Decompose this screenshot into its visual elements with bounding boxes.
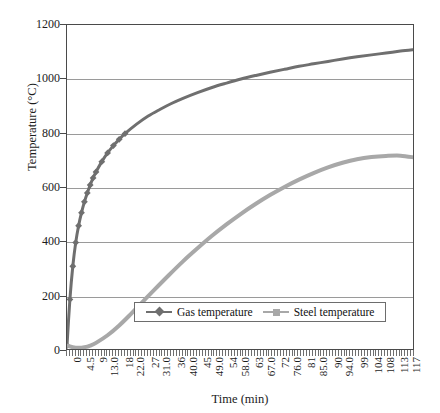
x-tick-mark [185,350,186,356]
x-tick-mark [260,350,261,356]
x-tick-mark [289,350,290,356]
x-tick-mark [92,350,93,356]
x-tick-mark [292,350,293,356]
y-tick-label: 1000 [26,72,60,84]
x-tick-label: 54 [228,357,239,391]
data-point-marker [78,209,85,216]
x-tick-mark [86,350,87,356]
x-tick-mark [150,350,151,356]
x-tick-mark [101,350,102,356]
y-tick-mark [60,187,66,188]
x-tick-mark [124,350,125,356]
x-axis-tick-marks [66,350,414,357]
x-tick-mark [80,350,81,356]
x-tick-mark [115,350,116,356]
x-tick-mark [300,350,301,356]
legend-entry-gas-temperature[interactable]: Gas temperature [146,306,253,318]
x-tick-mark [346,350,347,356]
data-point-marker [67,296,73,303]
x-tick-mark [179,350,180,356]
x-tick-mark [404,350,405,356]
x-tick-mark [225,350,226,356]
x-tick-mark [205,350,206,356]
x-tick-mark [378,350,379,356]
x-tick-mark [375,350,376,356]
x-tick-mark [344,350,345,356]
x-tick-mark [266,350,267,356]
x-tick-mark [245,350,246,356]
x-tick-label: 31.0 [161,357,172,391]
x-tick-mark [309,350,310,356]
y-tick-label: 1200 [26,18,60,30]
x-tick-mark [332,350,333,356]
x-tick-mark [341,350,342,356]
x-tick-mark [159,350,160,356]
x-tick-label: 36 [176,357,187,391]
legend-label: Gas temperature [177,306,253,318]
x-tick-mark [407,350,408,356]
x-tick-mark [135,350,136,356]
x-tick-mark [367,350,368,356]
x-tick-mark [83,350,84,356]
x-tick-mark [257,350,258,356]
legend-square-marker-icon [263,307,289,317]
y-tick-label: 600 [26,181,60,193]
x-tick-mark [234,350,235,356]
x-tick-mark [399,350,400,356]
x-tick-mark [121,350,122,356]
x-tick-label: 4.5 [85,357,96,391]
x-tick-mark [320,350,321,356]
x-tick-mark [329,350,330,356]
x-tick-label: 40.0 [188,357,199,391]
x-tick-mark [211,350,212,356]
data-point-marker [72,239,79,246]
x-tick-mark [228,350,229,356]
x-tick-label: 104 [373,357,384,391]
x-tick-mark [69,350,70,356]
x-tick-label: 13.0 [109,357,120,391]
x-tick-mark [294,350,295,356]
x-tick-mark [364,350,365,356]
x-tick-mark [208,350,209,356]
data-point-marker [75,222,82,229]
x-tick-mark [254,350,255,356]
x-tick-mark [338,350,339,356]
x-tick-mark [242,350,243,356]
legend-diamond-marker-icon [146,307,172,317]
x-tick-mark [271,350,272,356]
x-tick-mark [219,350,220,356]
x-tick-mark [373,350,374,356]
x-tick-mark [95,350,96,356]
x-tick-label: 45 [202,357,213,391]
x-tick-mark [118,350,119,356]
x-tick-label: 58.0 [240,357,251,391]
x-tick-mark [138,350,139,356]
x-tick-label: 0 [72,357,83,391]
x-tick-mark [280,350,281,356]
x-tick-mark [286,350,287,356]
x-axis-tick-labels: 04.5913.01822.02731.03640.04549.05458.06… [66,357,414,391]
legend-entry-steel-temperature[interactable]: Steel temperature [263,306,375,318]
x-tick-mark [352,350,353,356]
y-tick-mark [60,350,66,351]
x-tick-mark [161,350,162,356]
x-tick-mark [167,350,168,356]
x-tick-label: 90 [333,357,344,391]
x-tick-mark [237,350,238,356]
x-tick-mark [147,350,148,356]
x-tick-mark [173,350,174,356]
y-tick-mark [60,78,66,79]
y-tick-mark [60,24,66,25]
x-tick-mark [190,350,191,356]
x-tick-mark [109,350,110,356]
y-tick-mark [60,133,66,134]
x-tick-mark [66,350,67,356]
x-tick-mark [370,350,371,356]
data-point-marker [81,198,88,205]
y-tick-label: 800 [26,127,60,139]
x-tick-mark [164,350,165,356]
x-tick-label: 49.0 [214,357,225,391]
x-tick-mark [222,350,223,356]
x-tick-mark [213,350,214,356]
x-tick-mark [390,350,391,356]
